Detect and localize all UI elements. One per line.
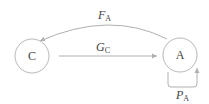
state-diagram: FA GC PA C A xyxy=(0,0,209,104)
node-c-label: C xyxy=(28,49,36,63)
edge-label-f-a: FA xyxy=(97,8,111,23)
edge-f-a xyxy=(40,25,167,41)
node-a-label: A xyxy=(176,48,185,62)
edge-label-g-c: GC xyxy=(96,40,110,55)
edge-label-p-a: PA xyxy=(175,88,189,103)
